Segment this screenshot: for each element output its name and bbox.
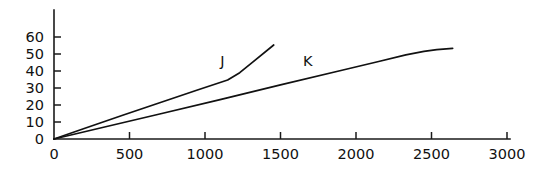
y-tick-label-10: 10 xyxy=(26,114,44,130)
chart-container: 0102030405060 050010001500200025003000 J… xyxy=(0,0,555,173)
x-tick-label-0: 0 xyxy=(49,146,58,162)
y-tick-label-60: 60 xyxy=(26,29,44,45)
x-tick-label-1000: 1000 xyxy=(187,146,224,162)
y-tick-label-0: 0 xyxy=(35,131,44,147)
x-tick-label-1500: 1500 xyxy=(262,146,299,162)
y-tick-label-20: 20 xyxy=(26,97,44,113)
series-label-K: K xyxy=(303,53,313,69)
y-axis-tick-labels: 0102030405060 xyxy=(26,29,44,147)
series-line-J xyxy=(54,45,274,139)
y-tick-label-40: 40 xyxy=(26,63,44,79)
series-label-J: J xyxy=(219,53,224,69)
x-tick-label-2500: 2500 xyxy=(413,146,450,162)
x-axis-tick-labels: 050010001500200025003000 xyxy=(49,146,525,162)
y-axis-ticks xyxy=(54,37,61,122)
x-tick-label-500: 500 xyxy=(116,146,144,162)
line-chart: 0102030405060 050010001500200025003000 J… xyxy=(0,0,555,173)
x-axis-ticks xyxy=(130,132,508,139)
y-tick-label-50: 50 xyxy=(26,46,44,62)
x-tick-label-2000: 2000 xyxy=(338,146,375,162)
x-tick-label-3000: 3000 xyxy=(489,146,526,162)
data-series-group xyxy=(54,45,453,139)
series-label-group: JK xyxy=(219,53,313,69)
y-tick-label-30: 30 xyxy=(26,80,44,96)
